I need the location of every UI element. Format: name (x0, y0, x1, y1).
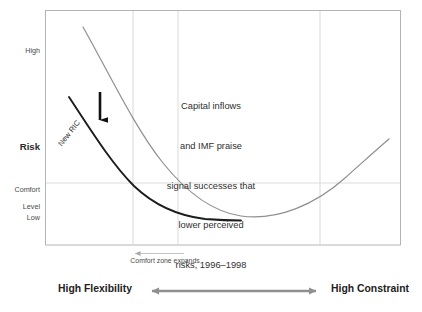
label-high-flexibility: High Flexibility (40, 283, 150, 295)
y-tick-label-high: High (6, 47, 40, 55)
y-axis-title: Risk (4, 141, 40, 152)
comfort-zone-expands-caption: Comfort zone expands (95, 257, 235, 265)
annotation-line-4: lower perceived (148, 219, 274, 232)
annotation-line-2: and IMF praise (148, 140, 274, 153)
label-high-constraint: High Constraint (318, 283, 422, 295)
y-tick-comfort-line2: Level (23, 202, 40, 211)
annotation-line-3: signal successes that (148, 180, 274, 193)
risk-flexibility-constraint-figure: High Comfort Level Low Risk Capital infl… (0, 0, 422, 312)
y-tick-comfort-line1: Comfort (14, 185, 40, 194)
y-tick-label-low: Low (6, 214, 40, 222)
annotation-line-1: Capital inflows (148, 100, 274, 113)
